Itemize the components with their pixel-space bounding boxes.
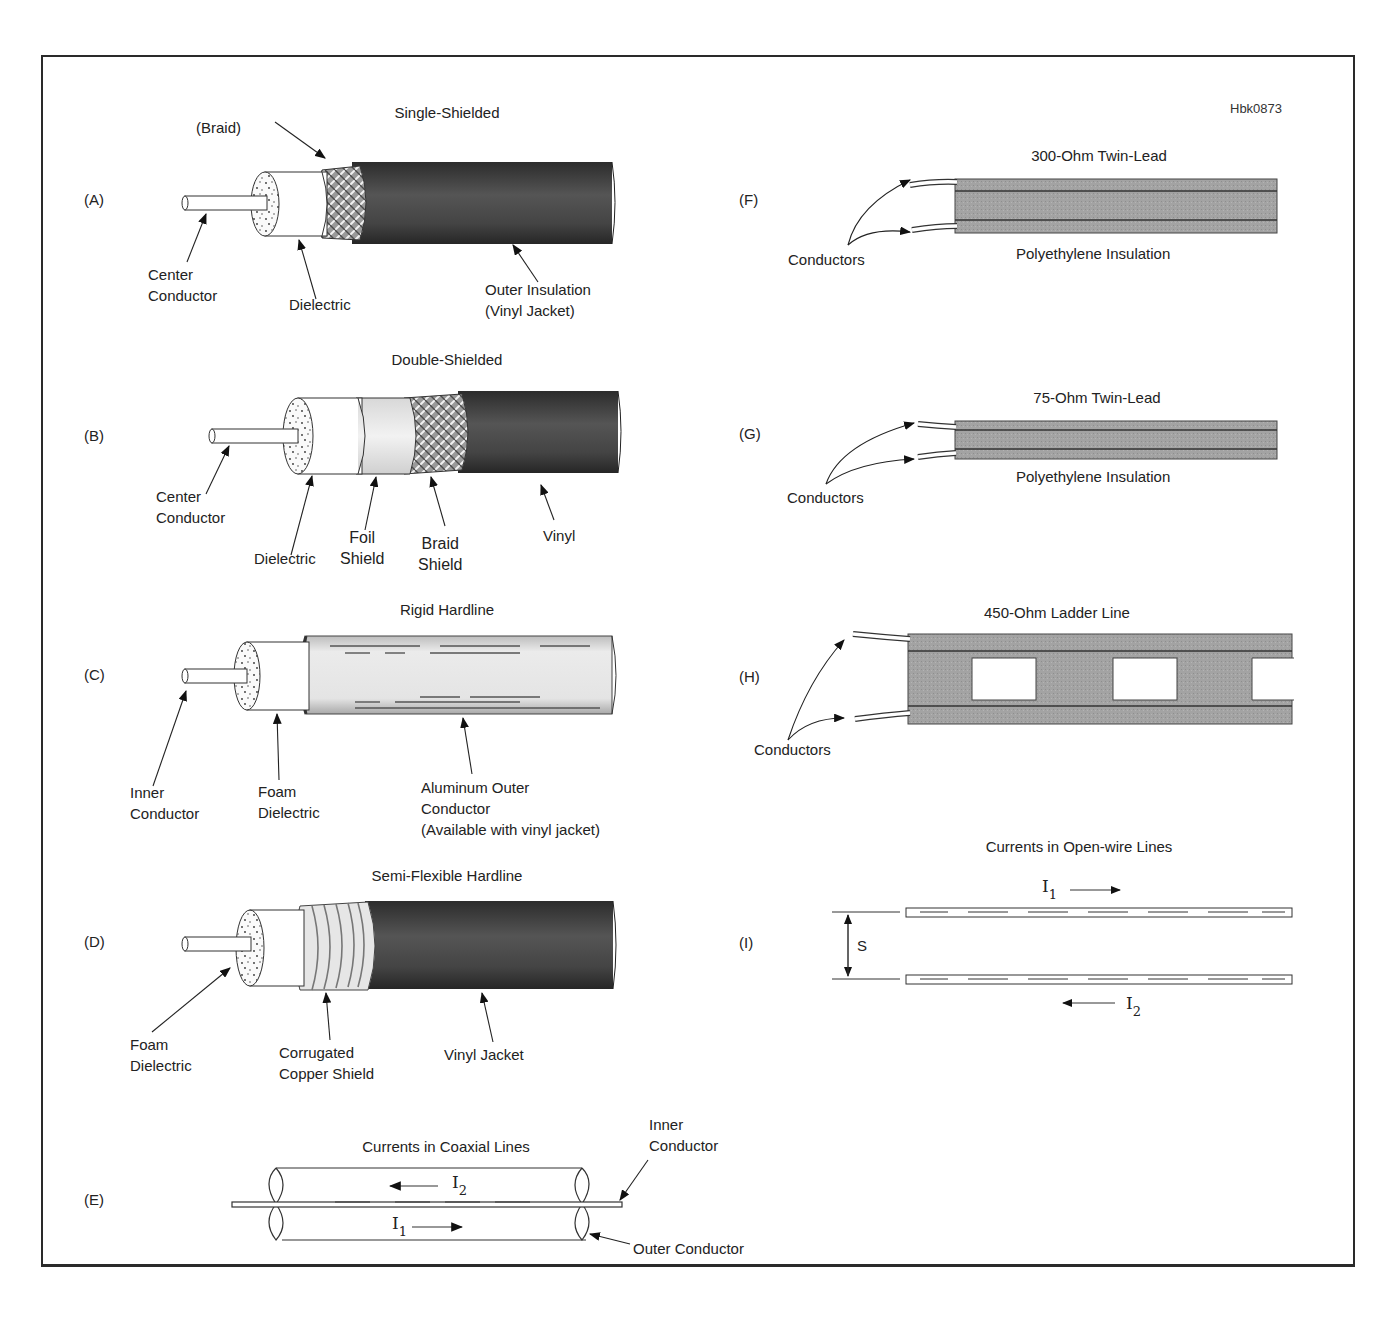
diagram-e-coax-currents bbox=[232, 1168, 622, 1240]
diagram-i-open-wire-currents bbox=[832, 890, 1292, 1003]
label-outer-conductor: Outer Conductor bbox=[633, 1238, 744, 1259]
panel-c-title: Rigid Hardline bbox=[400, 601, 494, 619]
label-outer-insulation: Outer Insulation (Vinyl Jacket) bbox=[485, 279, 591, 321]
panel-i-title: Currents in Open-wire Lines bbox=[986, 838, 1173, 856]
panel-h-title: 450-Ohm Ladder Line bbox=[984, 604, 1130, 622]
panel-a-title: Single-Shielded bbox=[394, 104, 499, 122]
cable-a-single-shielded bbox=[182, 162, 615, 244]
current-i2-label: I2 bbox=[452, 1172, 467, 1195]
label-corrugated-copper-shield: Corrugated Copper Shield bbox=[279, 1042, 374, 1084]
panel-f-letter: (F) bbox=[739, 191, 758, 208]
cable-d-semi-flexible-hardline bbox=[182, 901, 616, 990]
panel-f-title: 300-Ohm Twin-Lead bbox=[1031, 147, 1167, 165]
label-foam-dielectric: Foam Dielectric bbox=[130, 1034, 192, 1076]
panel-b-title: Double-Shielded bbox=[392, 351, 503, 369]
current-i1-label: I1 bbox=[392, 1213, 407, 1236]
panel-e-letter: (E) bbox=[84, 1191, 104, 1208]
label-inner-conductor: Inner Conductor bbox=[130, 782, 199, 824]
panel-g-title: 75-Ohm Twin-Lead bbox=[1033, 389, 1160, 407]
panel-e-title: Currents in Coaxial Lines bbox=[362, 1138, 530, 1156]
label-dielectric: Dielectric bbox=[254, 548, 316, 569]
figure-reference-code: Hbk0873 bbox=[1230, 101, 1282, 116]
twinlead-g-75-ohm bbox=[918, 421, 1277, 459]
panel-c-letter: (C) bbox=[84, 666, 105, 683]
panel-b-letter: (B) bbox=[84, 427, 104, 444]
panel-d-title: Semi-Flexible Hardline bbox=[372, 867, 523, 885]
current-i1-label: I1 bbox=[1042, 876, 1057, 899]
label-vinyl-jacket: Vinyl Jacket bbox=[444, 1044, 524, 1065]
panel-g-letter: (G) bbox=[739, 425, 761, 442]
label-center-conductor: Center Conductor bbox=[148, 264, 217, 306]
cable-c-rigid-hardline bbox=[182, 636, 616, 714]
current-i2-label: I2 bbox=[1126, 993, 1141, 1016]
label-braid: (Braid) bbox=[196, 117, 241, 138]
ladder-line-h-450-ohm bbox=[853, 634, 1294, 724]
label-center-conductor: Center Conductor bbox=[156, 486, 225, 528]
label-foil-shield: Foil Shield bbox=[340, 527, 384, 569]
label-conductors: Conductors bbox=[787, 487, 864, 508]
label-aluminum-outer-conductor: Aluminum Outer Conductor (Available with… bbox=[421, 777, 600, 840]
cable-b-double-shielded bbox=[209, 391, 621, 474]
label-polyethylene-insulation: Polyethylene Insulation bbox=[1016, 466, 1170, 487]
label-conductors: Conductors bbox=[754, 739, 831, 760]
twinlead-f-300-ohm bbox=[910, 179, 1277, 233]
label-polyethylene-insulation: Polyethylene Insulation bbox=[1016, 243, 1170, 264]
label-dielectric: Dielectric bbox=[289, 294, 351, 315]
panel-h-letter: (H) bbox=[739, 668, 760, 685]
label-inner-conductor: Inner Conductor bbox=[649, 1114, 718, 1156]
label-conductors: Conductors bbox=[788, 249, 865, 270]
panel-a-letter: (A) bbox=[84, 191, 104, 208]
panel-d-letter: (D) bbox=[84, 933, 105, 950]
label-foam-dielectric: Foam Dielectric bbox=[258, 781, 320, 823]
label-vinyl: Vinyl bbox=[543, 525, 575, 546]
label-braid-shield: Braid Shield bbox=[418, 533, 462, 575]
panel-i-letter: (I) bbox=[739, 934, 753, 951]
label-spacing-s: S bbox=[857, 935, 867, 956]
